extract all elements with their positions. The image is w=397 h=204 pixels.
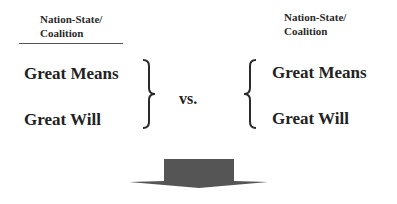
down-arrow-icon — [0, 0, 397, 204]
